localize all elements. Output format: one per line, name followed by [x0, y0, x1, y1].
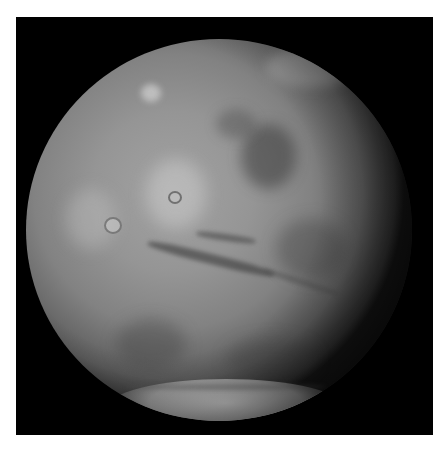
image-frame [16, 17, 433, 435]
mars-planet [26, 39, 412, 421]
limb-shading [26, 39, 412, 421]
